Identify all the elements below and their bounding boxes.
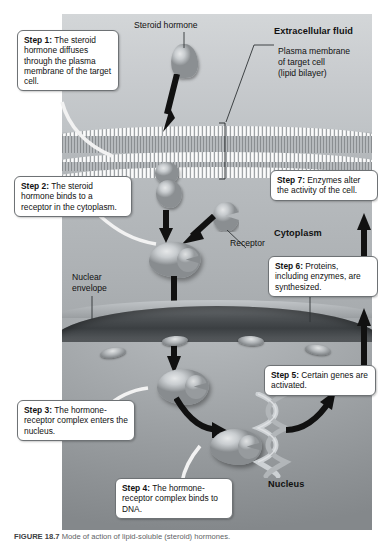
step-2-number: Step 2: — [21, 181, 49, 191]
step-5-callout[interactable]: Step 5: Certain genes are activated. — [264, 365, 376, 396]
label-plasma-membrane-line1: Plasma membrane — [278, 46, 350, 57]
step-6-number: Step 6: — [275, 261, 303, 271]
figure-number: FIGURE 18.7 — [14, 532, 60, 541]
receptor-binding-arrow — [180, 214, 216, 246]
step-3-number: Step 3: — [24, 405, 52, 415]
label-nuclear-envelope-line1: Nuclear — [72, 272, 102, 283]
label-plasma-membrane-line3: (lipid bilayer) — [278, 68, 327, 79]
step-1-callout[interactable]: Step 1: The steroid hormone diffuses thr… — [17, 30, 119, 91]
protein-synthesis-arrow — [356, 306, 372, 372]
figure-caption: FIGURE 18.7 Mode of action of lipid-solu… — [14, 532, 366, 542]
step-2-callout[interactable]: Step 2: The steroid hormone binds to a r… — [14, 176, 132, 217]
figure-container: Steroid hormone Extracellular fluid Plas… — [0, 0, 378, 548]
nuclear-pore-leader-line — [308, 296, 312, 322]
label-cytoplasm: Cytoplasm — [274, 228, 322, 239]
plasma-membrane-leader-line — [222, 42, 276, 126]
label-receptor: Receptor — [230, 238, 265, 249]
label-extracellular-fluid: Extracellular fluid — [274, 26, 353, 37]
step-1-callout-tail — [58, 100, 118, 160]
complex-receptor-notch — [177, 248, 199, 272]
step-7-callout[interactable]: Step 7: Enzymes alter the activity of th… — [270, 170, 378, 201]
nuclear-envelope-leader-line — [90, 296, 94, 320]
step-4-callout[interactable]: Step 4: The hormone-receptor complex bin… — [115, 478, 233, 519]
steroid-hormone-leader-line — [182, 32, 186, 48]
step-3-callout[interactable]: Step 3: The hormone-receptor complex ent… — [17, 400, 135, 441]
label-nuclear-envelope-line2: envelope — [72, 283, 107, 294]
step-2-callout-tail — [98, 214, 162, 256]
label-plasma-membrane-line2: of target cell — [278, 57, 325, 68]
membrane-thickness-bracket — [218, 122, 230, 180]
step-6-callout[interactable]: Step 6: Proteins, including enzymes, are… — [268, 256, 378, 297]
label-nucleus: Nucleus — [268, 479, 304, 490]
hormone-in-cytoplasm — [156, 180, 182, 208]
figure-caption-text: Mode of action of lipid-soluble (steroid… — [62, 532, 230, 541]
step-7-number: Step 7: — [277, 175, 305, 185]
step-4-number: Step 4: — [122, 483, 150, 493]
step-1-number: Step 1: — [24, 35, 52, 45]
diffusion-arrow-step1 — [161, 74, 185, 136]
step-5-number: Step 5: — [271, 370, 299, 380]
label-steroid-hormone: Steroid hormone — [134, 20, 198, 31]
